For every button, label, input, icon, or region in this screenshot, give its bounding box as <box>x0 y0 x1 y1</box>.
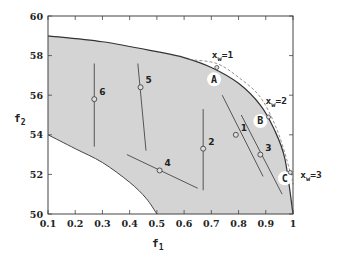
x-tick-label: 1 <box>290 218 297 229</box>
y-tick-label: 52 <box>30 169 43 180</box>
point-label-4: 4 <box>165 158 171 168</box>
region-label-C: C <box>282 173 288 184</box>
x-tick-label: 0.8 <box>230 218 247 229</box>
data-point-2 <box>201 146 206 151</box>
xw-label-2: xw=2 <box>266 95 287 109</box>
xw-point-3 <box>288 170 292 174</box>
y-axis-title: f2 <box>14 112 26 127</box>
x-tick-label: 0.2 <box>67 218 84 229</box>
data-point-5 <box>138 85 143 90</box>
point-label-3: 3 <box>265 143 271 153</box>
y-tick-label: 54 <box>30 129 44 140</box>
xw-point-1 <box>215 65 219 69</box>
point-label-5: 5 <box>146 75 152 85</box>
xw-label-3: xw=3 <box>300 169 322 183</box>
x-tick-label: 0.7 <box>203 218 220 229</box>
xw-point-2 <box>267 115 271 119</box>
data-point-6 <box>92 97 97 102</box>
x-tick-label: 0.3 <box>94 218 111 229</box>
x-axis-title: f1 <box>152 237 164 252</box>
data-point-3 <box>258 152 263 157</box>
y-tick-label: 50 <box>30 209 44 220</box>
data-point-4 <box>157 168 162 173</box>
x-tick-label: 0.9 <box>258 218 275 229</box>
point-label-6: 6 <box>99 87 105 97</box>
chart: 123456 0.10.20.30.40.50.60.70.80.9150525… <box>0 0 342 260</box>
region-label-A: A <box>211 74 217 85</box>
x-tick-label: 0.5 <box>149 218 166 229</box>
x-tick-label: 0.1 <box>40 218 57 229</box>
data-point-1 <box>233 132 238 137</box>
point-label-2: 2 <box>208 137 214 147</box>
x-tick-label: 0.4 <box>121 218 138 229</box>
y-tick-label: 56 <box>30 90 44 101</box>
region-label-B: B <box>257 115 263 126</box>
y-tick-label: 58 <box>30 50 44 61</box>
xw-label-1: xw=1 <box>212 49 234 63</box>
x-tick-label: 0.6 <box>176 218 193 229</box>
y-tick-label: 60 <box>30 11 44 22</box>
